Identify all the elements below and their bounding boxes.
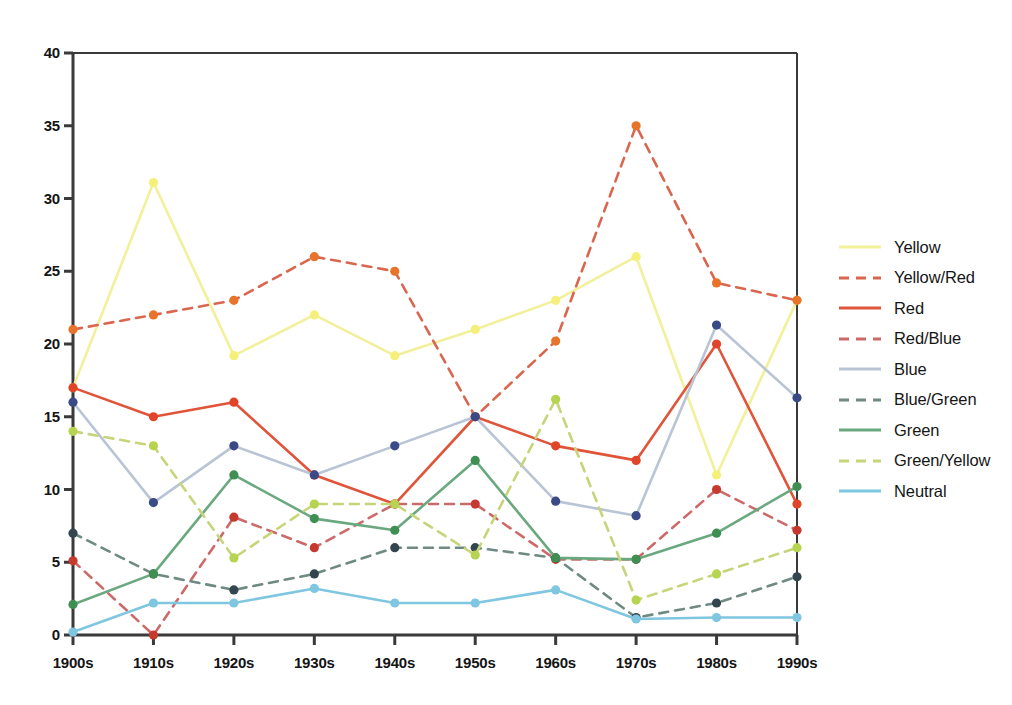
x-tick-label: 1900s — [36, 655, 110, 671]
data-point — [149, 630, 158, 639]
data-point — [712, 339, 721, 348]
data-point — [68, 556, 77, 565]
legend-item-label: Green/Yellow — [894, 451, 990, 470]
legend-item-neutral[interactable]: Neutral — [838, 476, 1012, 507]
data-point — [390, 526, 399, 535]
line-chart-svg — [0, 0, 812, 705]
series-red-blue — [68, 485, 801, 640]
y-tick-label: 15 — [26, 409, 60, 424]
data-point — [149, 178, 158, 187]
x-tick-label: 1930s — [277, 655, 351, 671]
y-tick-label: 30 — [26, 191, 60, 206]
legend-item-label: Yellow/Red — [894, 268, 975, 287]
data-point — [712, 529, 721, 538]
legend-line-swatch-icon — [838, 272, 882, 284]
x-tick-label: 1990s — [760, 655, 834, 671]
y-tick-label: 40 — [26, 45, 60, 60]
legend-item-yellow[interactable]: Yellow — [838, 232, 1012, 263]
data-point — [792, 572, 801, 581]
data-point — [632, 511, 641, 520]
data-point — [792, 482, 801, 491]
data-point — [229, 513, 238, 522]
data-point — [792, 526, 801, 535]
legend-item-label: Yellow — [894, 238, 941, 257]
chart-page: 4035302520151050 1900s1910s1920s1930s194… — [0, 0, 1012, 705]
data-point — [551, 553, 560, 562]
data-point — [310, 499, 319, 508]
data-point — [712, 613, 721, 622]
data-point — [229, 351, 238, 360]
legend-item-yellow-red[interactable]: Yellow/Red — [838, 263, 1012, 294]
series-blue — [68, 320, 801, 520]
data-point — [68, 325, 77, 334]
data-point — [551, 441, 560, 450]
data-point — [632, 555, 641, 564]
legend-line-swatch-icon — [838, 394, 882, 406]
data-point — [149, 569, 158, 578]
data-point — [68, 383, 77, 392]
data-point — [310, 569, 319, 578]
data-point — [149, 441, 158, 450]
legend-item-blue[interactable]: Blue — [838, 354, 1012, 385]
y-tick-label: 10 — [26, 482, 60, 497]
legend-line-swatch-icon — [838, 424, 882, 436]
legend-line-swatch-icon — [838, 333, 882, 345]
legend-item-green-yellow[interactable]: Green/Yellow — [838, 446, 1012, 477]
legend-line-swatch-icon — [838, 363, 882, 375]
data-point — [471, 412, 480, 421]
data-point — [310, 514, 319, 523]
data-point — [792, 296, 801, 305]
legend-item-blue-green[interactable]: Blue/Green — [838, 385, 1012, 416]
legend-item-label: Blue — [894, 360, 927, 379]
series-yellow — [68, 178, 801, 480]
data-point — [229, 398, 238, 407]
legend-item-label: Neutral — [894, 482, 947, 501]
data-point — [712, 569, 721, 578]
x-tick-label: 1950s — [438, 655, 512, 671]
legend-item-red[interactable]: Red — [838, 293, 1012, 324]
x-tick-label: 1960s — [519, 655, 593, 671]
data-point — [229, 585, 238, 594]
data-point — [551, 395, 560, 404]
data-point — [310, 584, 319, 593]
data-point — [712, 485, 721, 494]
x-tick-label: 1920s — [197, 655, 271, 671]
data-point — [471, 499, 480, 508]
data-point — [471, 598, 480, 607]
data-point — [390, 543, 399, 552]
data-point — [68, 398, 77, 407]
data-point — [632, 614, 641, 623]
data-point — [229, 553, 238, 562]
data-point — [712, 278, 721, 287]
legend-line-swatch-icon — [838, 302, 882, 314]
data-point — [149, 498, 158, 507]
legend-item-label: Green — [894, 421, 939, 440]
x-tick-label: 1910s — [116, 655, 190, 671]
data-point — [632, 252, 641, 261]
data-point — [229, 441, 238, 450]
data-point — [471, 550, 480, 559]
y-tick-label: 5 — [26, 554, 60, 569]
data-point — [551, 336, 560, 345]
legend-item-green[interactable]: Green — [838, 415, 1012, 446]
data-point — [310, 543, 319, 552]
data-point — [712, 598, 721, 607]
y-tick-label: 0 — [26, 627, 60, 642]
data-point — [229, 470, 238, 479]
series-green — [68, 456, 801, 609]
y-tick-label: 35 — [26, 118, 60, 133]
legend-line-swatch-icon — [838, 455, 882, 467]
data-point — [68, 427, 77, 436]
data-point — [68, 529, 77, 538]
legend-line-swatch-icon — [838, 485, 882, 497]
data-point — [229, 296, 238, 305]
x-tick-label: 1940s — [358, 655, 432, 671]
legend-item-label: Red/Blue — [894, 329, 961, 348]
data-point — [792, 393, 801, 402]
data-point — [632, 456, 641, 465]
legend-item-label: Blue/Green — [894, 390, 976, 409]
data-point — [551, 296, 560, 305]
series-neutral — [68, 584, 801, 637]
legend-item-red-blue[interactable]: Red/Blue — [838, 324, 1012, 355]
data-point — [390, 499, 399, 508]
